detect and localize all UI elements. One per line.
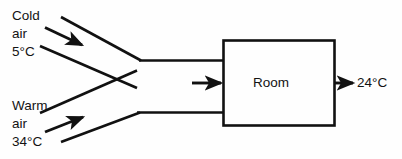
warm-air-temperature: 34°C	[12, 133, 48, 151]
warm-duct-upper-wall	[40, 71, 137, 114]
warm-air-flow-arrow	[45, 117, 83, 132]
mixing-junction	[137, 61, 224, 113]
diagram-canvas	[0, 0, 402, 159]
cold-duct-upper-wall	[61, 17, 141, 61]
warm-duct-lower-wall	[61, 113, 140, 143]
outlet-temperature-label: 24°C	[357, 74, 387, 91]
cold-air-flow-arrow	[45, 28, 82, 46]
cold-air-label-line-1: Cold	[12, 7, 40, 25]
warm-air-label-line-1: Warm	[12, 97, 48, 115]
warm-air-label: Warm air 34°C	[12, 97, 48, 151]
room-box-label: Room	[253, 74, 289, 91]
cold-air-label-line-2: air	[12, 25, 40, 43]
warm-air-label-line-2: air	[12, 115, 48, 133]
cold-air-temperature: 5°C	[12, 43, 40, 61]
cold-duct-lower-wall	[40, 46, 137, 88]
cold-air-label: Cold air 5°C	[12, 7, 40, 61]
warm-air-duct	[40, 71, 140, 143]
cold-air-duct	[40, 17, 141, 88]
air-mixing-diagram: Cold air 5°C Warm air 34°C Room 24°C	[0, 0, 402, 159]
